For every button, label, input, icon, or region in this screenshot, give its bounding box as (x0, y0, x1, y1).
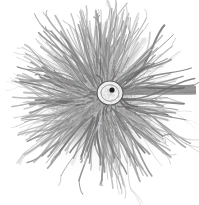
cell-illustration-canvas (0, 0, 199, 205)
figure-root: Golgi-stained stellate cell Grayscale in… (0, 0, 199, 205)
